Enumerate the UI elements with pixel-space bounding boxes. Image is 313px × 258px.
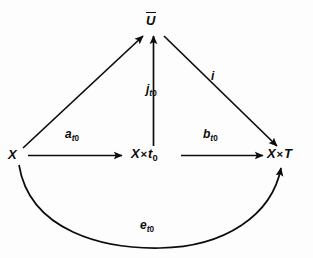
edge-label-a-base: a: [65, 127, 72, 141]
node-x-times-T-base: X: [267, 146, 276, 161]
times-operator-icon: ×: [276, 148, 284, 160]
node-x: X: [8, 148, 17, 161]
edge-label-b-t0: bt0: [203, 128, 218, 143]
edge-label-e-subsub: 0: [150, 225, 155, 234]
edge-label-j-t0: jt0: [146, 83, 157, 98]
times-operator-icon: ×: [140, 148, 148, 160]
node-x-times-t0-base: X: [131, 146, 140, 161]
node-x-times-T: X×T: [267, 147, 292, 160]
node-x-times-t0-subscript: 0: [153, 153, 158, 163]
edge-label-e-base: e: [140, 218, 147, 232]
node-u-bar: U: [146, 12, 156, 27]
edge-label-i-base: i: [211, 69, 214, 83]
edge-label-e-t0: et0: [140, 219, 154, 234]
diagram-edges-canvas: [0, 0, 313, 258]
edge-label-j-subsub: 0: [152, 89, 157, 98]
edge-label-b-subsub: 0: [213, 134, 218, 143]
commutative-diagram: X X×t0 X×T U at0 bt0 jt0 i et0: [0, 0, 313, 258]
arrow-i: [164, 36, 277, 146]
edge-label-a-subsub: 0: [75, 134, 80, 143]
edge-label-a-t0: at0: [65, 128, 79, 143]
arrow-e-t0: [19, 165, 281, 248]
node-x-label: X: [8, 147, 17, 162]
edge-label-i: i: [211, 70, 214, 82]
node-u-bar-label: U: [146, 12, 156, 27]
arrow-x-to-u-bar: [23, 36, 143, 148]
node-x-times-T-operand: T: [284, 146, 292, 161]
node-x-times-t0: X×t0: [131, 147, 158, 164]
